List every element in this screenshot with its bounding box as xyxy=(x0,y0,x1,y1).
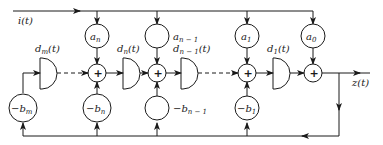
adder-1: + xyxy=(238,64,256,82)
feedback-node-b1: −b1 xyxy=(235,96,259,120)
adder-0: + xyxy=(304,64,322,82)
feedback-node-bm: −bm xyxy=(9,94,37,122)
svg-text:+: + xyxy=(244,67,253,80)
svg-text:+: + xyxy=(94,67,103,80)
svg-text:dm(t): dm(t) xyxy=(35,43,60,56)
svg-text:+: + xyxy=(154,67,163,80)
adder-n: + xyxy=(88,64,106,82)
output-label: z(t) xyxy=(351,77,369,88)
input-label: i(t) xyxy=(18,15,33,26)
delay-dn1: dn − 1(t) xyxy=(173,43,211,89)
coef-node-a0: a0 xyxy=(301,24,325,48)
coef-node-a1: a1 xyxy=(235,24,259,48)
delay-dn: dn(t) xyxy=(117,43,140,89)
feedback-node-bn: −bn xyxy=(83,94,111,122)
coef-node-an1: an − 1 xyxy=(145,24,198,48)
svg-text:d1(t): d1(t) xyxy=(267,43,290,56)
svg-text:+: + xyxy=(310,67,319,80)
svg-text:dn − 1(t): dn − 1(t) xyxy=(173,43,211,56)
signal-flow-diagram: i(t) an an − 1 a1 a0 + + + + xyxy=(0,0,383,145)
coef-node-an: an xyxy=(85,24,109,48)
feedback-node-bn1: −bn − 1 xyxy=(145,96,207,120)
delay-d1: d1(t) xyxy=(267,43,290,89)
svg-text:dn(t): dn(t) xyxy=(117,43,140,56)
svg-text:−bn − 1: −bn − 1 xyxy=(173,103,207,116)
adder-n1: + xyxy=(148,64,166,82)
delay-dm: dm(t) xyxy=(35,43,60,89)
